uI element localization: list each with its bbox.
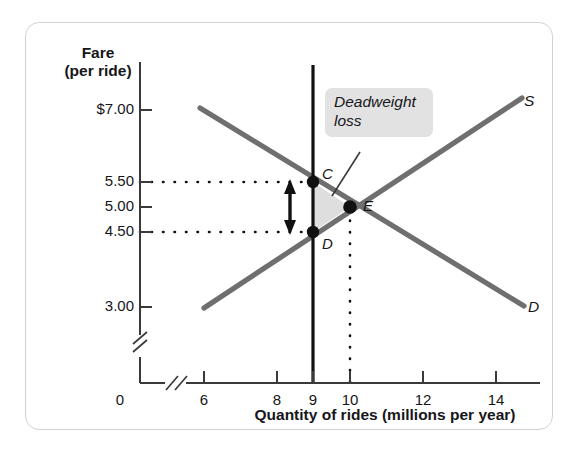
- x-axis-origin-label: 0: [105, 392, 135, 409]
- y-axis-title-line1: Fare: [58, 44, 138, 61]
- y-tick-label-500: 5.00: [68, 198, 134, 215]
- deadweight-leader-line: [332, 152, 360, 196]
- point-label-d: D: [322, 236, 333, 253]
- deadweight-loss-line2: loss: [334, 112, 424, 131]
- point-d-marker: [307, 226, 319, 238]
- x-tick-label-12: 12: [408, 392, 438, 409]
- x-tick-label-6: 6: [189, 392, 219, 409]
- wedge-arrow-head-up: [284, 179, 296, 194]
- x-tick-label-10: 10: [335, 392, 365, 409]
- point-label-e: E: [363, 198, 373, 215]
- y-tick-label-700: $7.00: [68, 101, 134, 118]
- point-label-c: C: [322, 166, 333, 183]
- point-c-marker: [307, 176, 319, 188]
- x-tick-label-9: 9: [298, 392, 328, 409]
- x-tick-label-8: 8: [262, 392, 292, 409]
- supply-curve-label: S: [524, 92, 534, 109]
- x-tick-label-14: 14: [481, 392, 511, 409]
- point-e-marker: [343, 200, 357, 214]
- y-axis-title-line2: (per ride): [44, 62, 152, 79]
- deadweight-loss-callout: Deadweight loss: [325, 88, 433, 137]
- wedge-arrow-head-down: [284, 220, 296, 235]
- y-tick-label-300: 3.00: [68, 298, 134, 315]
- y-tick-label-550: 5.50: [68, 173, 134, 190]
- y-tick-label-450: 4.50: [68, 223, 134, 240]
- demand-curve-label: D: [528, 298, 539, 315]
- deadweight-loss-line1: Deadweight: [334, 93, 424, 112]
